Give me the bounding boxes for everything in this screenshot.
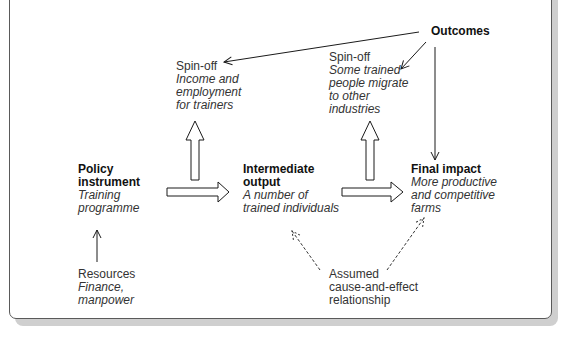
block-arrow-policy-to-intermediate: [167, 182, 229, 202]
resources-line: manpower: [78, 294, 135, 307]
policy-instrument-line: programme: [78, 202, 140, 215]
block-arrow-intermediate-to-spinoff-trainers: [186, 121, 204, 180]
dashed-arrow-assumed-to-intermediate: [292, 231, 320, 270]
spinoff-migration-line: industries: [329, 103, 408, 116]
node-outcomes: Outcomes: [431, 25, 490, 38]
node-policy-instrument: Policy instrument Training programme: [78, 163, 140, 215]
spinoff-trainers-line: for trainers: [176, 99, 241, 112]
final-impact-line: farms: [411, 202, 497, 215]
node-intermediate-output: Intermediate output A number of trained …: [243, 163, 339, 215]
block-arrow-to-spinoff-migration: [361, 121, 379, 180]
assumed-relationship-line: relationship: [329, 294, 418, 307]
node-spinoff-trainers: Spin-off Income and employment for train…: [176, 60, 241, 112]
node-assumed-relationship: Assumed cause-and-effect relationship: [329, 268, 418, 307]
node-resources: Resources Finance, manpower: [78, 268, 135, 307]
intermediate-output-line: trained individuals: [243, 202, 339, 215]
block-arrow-intermediate-to-final: [342, 182, 403, 202]
outcomes-title: Outcomes: [431, 25, 490, 38]
dashed-arrow-assumed-to-final: [387, 218, 424, 270]
node-spinoff-migration: Spin-off Some trained people migrate to …: [329, 51, 408, 116]
node-final-impact: Final impact More productive and competi…: [411, 163, 497, 215]
